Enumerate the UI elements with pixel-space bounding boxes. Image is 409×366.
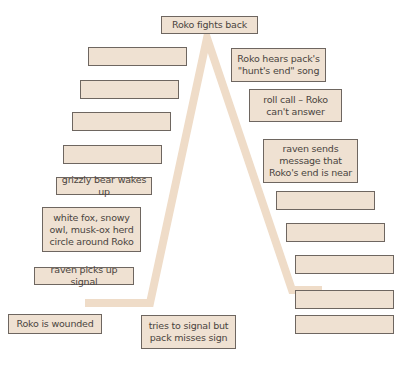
falling-action-box-empty-1[interactable]: [276, 191, 375, 210]
rising-action-box-circle: white fox, snowy owl, musk-ox herd circl…: [42, 207, 141, 252]
peak-box: Roko fights back: [161, 16, 258, 34]
falling-action-box-hunts-end: Roko hears pack's "hunt's end" song: [231, 48, 326, 82]
rising-action-box-empty-1[interactable]: [88, 47, 187, 66]
rising-action-box-empty-3[interactable]: [72, 112, 171, 131]
rising-action-box-raven-signal: raven picks up signal: [34, 267, 134, 285]
plot-diagram: Roko fights back grizzly bear wakes up w…: [0, 0, 409, 366]
rising-action-box-empty-2[interactable]: [80, 80, 179, 99]
rising-action-box-empty-4[interactable]: [63, 145, 162, 164]
falling-action-box-empty-2[interactable]: [286, 223, 385, 242]
falling-action-box-empty-4[interactable]: [295, 290, 394, 309]
rising-action-box-grizzly: grizzly bear wakes up: [56, 177, 152, 195]
falling-action-box-raven-message: raven sends message that Roko's end is n…: [263, 139, 358, 183]
rising-action-box-tries-signal: tries to signal but pack misses sign: [141, 315, 236, 349]
falling-action-box-empty-5[interactable]: [295, 315, 394, 334]
rising-action-box-wounded: Roko is wounded: [8, 314, 102, 334]
falling-action-box-roll-call: roll call – Roko can't answer: [249, 89, 342, 122]
falling-action-box-empty-3[interactable]: [295, 255, 394, 274]
